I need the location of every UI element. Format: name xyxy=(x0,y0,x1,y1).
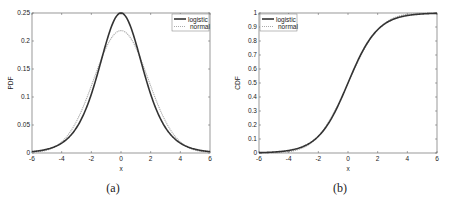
pdf-y-axis-label: PDF xyxy=(7,76,14,89)
x-tick-label: 0 xyxy=(119,155,123,162)
x-tick-label: -4 xyxy=(286,155,292,162)
x-tick-label: 2 xyxy=(149,155,153,162)
x-tick-label: -6 xyxy=(29,155,35,162)
legend-normal-label: normal xyxy=(190,23,210,30)
y-tick-label: 0.6 xyxy=(248,65,257,72)
x-tick-label: -6 xyxy=(256,155,262,162)
cdf-chart: -6-4-2024600.10.20.30.40.50.60.70.80.91 … xyxy=(234,9,439,195)
figure: -6-4-2024600.050.10.150.20.25 x PDF logi… xyxy=(0,0,449,202)
y-tick-label: 0.1 xyxy=(248,135,257,142)
y-tick-label: 0.2 xyxy=(248,121,257,128)
y-tick-label: 0 xyxy=(26,149,30,156)
y-tick-label: 0.4 xyxy=(248,93,257,100)
x-tick-label: -2 xyxy=(315,155,321,162)
y-tick-label: 0 xyxy=(253,149,257,156)
x-tick-label: -4 xyxy=(59,155,65,162)
y-tick-label: 0.05 xyxy=(17,121,30,128)
y-tick-label: 0.2 xyxy=(21,37,30,44)
cdf-y-axis-label: CDF xyxy=(234,76,241,89)
pdf-caption: (a) xyxy=(106,181,119,195)
y-tick-label: 0.5 xyxy=(248,79,257,86)
legend-normal-label: normal xyxy=(278,23,298,30)
y-tick-label: 0.8 xyxy=(248,37,257,44)
y-tick-label: 0.25 xyxy=(17,9,30,16)
pdf-plot-area xyxy=(32,13,210,153)
cdf-legend: logistic normal xyxy=(260,14,298,31)
y-tick-label: 0.9 xyxy=(248,23,257,30)
x-tick-label: -2 xyxy=(88,155,94,162)
x-tick-label: 6 xyxy=(435,155,439,162)
y-tick-label: 0.15 xyxy=(17,65,30,72)
y-tick-label: 0.7 xyxy=(248,51,257,58)
x-tick-label: 0 xyxy=(346,155,350,162)
x-tick-label: 6 xyxy=(208,155,212,162)
pdf-chart: -6-4-2024600.050.10.150.20.25 x PDF logi… xyxy=(7,9,212,195)
y-tick-label: 1 xyxy=(253,9,257,16)
y-tick-label: 0.1 xyxy=(21,93,30,100)
cdf-caption: (b) xyxy=(333,181,347,195)
x-tick-label: 2 xyxy=(376,155,380,162)
pdf-legend: logistic normal xyxy=(172,14,210,31)
x-tick-label: 4 xyxy=(179,155,183,162)
pdf-x-axis-label: x xyxy=(119,165,123,172)
cdf-x-axis-label: x xyxy=(346,165,350,172)
y-tick-label: 0.3 xyxy=(248,107,257,114)
x-tick-label: 4 xyxy=(406,155,410,162)
